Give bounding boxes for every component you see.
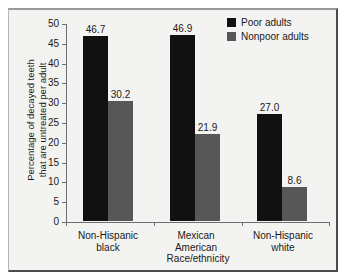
bar-poor-adults-mexican-american[interactable]: 46.9 [170,35,195,221]
x-category-label-non-hispanic-white-line1: Non-Hispanic [253,230,313,241]
bar-value-nonpoor-adults-non-hispanic-white: 8.6 [288,175,302,186]
y-tick-label-20: 20 [48,137,59,148]
x-tick-3 [329,222,330,226]
y-tick-label-25: 25 [48,117,59,128]
bar-nonpoor-adults-non-hispanic-white[interactable]: 8.6 [282,187,307,221]
y-tick-30: 30 [62,103,66,104]
y-axis-title-line1: Percentage of decayed teeth [25,59,36,180]
x-category-label-non-hispanic-white: Non-Hispanic white [239,230,327,254]
y-tick-50: 50 [62,24,66,25]
y-tick-label-50: 50 [48,18,59,29]
bar-value-poor-adults-non-hispanic-white: 27.0 [260,102,279,113]
y-tick-10: 10 [62,182,66,183]
x-category-label-non-hispanic-black-line1: Non-Hispanic [78,230,138,241]
y-tick-20: 20 [62,143,66,144]
y-tick-15: 15 [62,163,66,164]
y-tick-5: 5 [62,202,66,203]
bar-value-nonpoor-adults-mexican-american: 21.9 [198,122,217,133]
bar-value-poor-adults-non-hispanic-black: 46.7 [86,24,105,35]
y-tick-35: 35 [62,83,66,84]
bar-value-poor-adults-mexican-american: 46.9 [173,23,192,34]
y-tick-label-5: 5 [53,196,59,207]
bar-nonpoor-adults-non-hispanic-black[interactable]: 30.2 [108,101,133,221]
y-tick-25: 25 [62,123,66,124]
x-category-label-non-hispanic-white-line2: white [271,242,294,253]
figure-frame: Poor adults Nonpoor adults Percentage of… [8,8,338,272]
y-tick-label-0: 0 [53,216,59,227]
bar-value-nonpoor-adults-non-hispanic-black: 30.2 [111,89,130,100]
bar-poor-adults-non-hispanic-black[interactable]: 46.7 [83,36,108,221]
y-tick-40: 40 [62,64,66,65]
x-category-label-mexican-american: Mexican American [152,230,240,254]
y-axis-title: Percentage of decayed teeth that are unt… [25,24,49,216]
y-tick-45: 45 [62,44,66,45]
y-tick-label-45: 45 [48,38,59,49]
bar-nonpoor-adults-mexican-american[interactable]: 21.9 [195,134,220,221]
y-tick-label-35: 35 [48,77,59,88]
plot-area: 50 45 40 35 30 25 20 15 10 5 0 46.7 [66,24,330,222]
bar-poor-adults-non-hispanic-white[interactable]: 27.0 [257,114,282,221]
x-tick-2 [242,222,243,226]
y-tick-label-10: 10 [48,176,59,187]
x-axis-title: Race/ethnicity [66,253,330,264]
y-axis-line [66,24,67,223]
y-axis-title-line2: that are untreated per adult [37,63,48,178]
x-category-label-non-hispanic-black-line2: black [96,242,119,253]
x-tick-1 [154,222,155,226]
y-tick-label-40: 40 [48,58,59,69]
x-axis-line [66,222,330,223]
x-category-label-mexican-american-line2: American [175,242,217,253]
x-category-label-non-hispanic-black: Non-Hispanic black [64,230,152,254]
y-axis-title-wrap: Percentage of decayed teeth that are unt… [21,20,51,220]
x-tick-0 [66,222,67,226]
y-tick-label-30: 30 [48,97,59,108]
x-category-label-mexican-american-line1: Mexican [177,230,214,241]
y-tick-label-15: 15 [48,157,59,168]
